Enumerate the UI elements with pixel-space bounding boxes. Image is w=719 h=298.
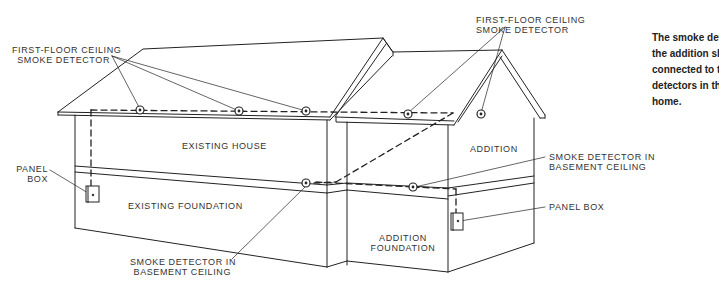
label-panel-box-left: PANEL BOX bbox=[12, 164, 48, 184]
junction-walls bbox=[327, 122, 347, 267]
smoke-detector-icon bbox=[302, 107, 310, 115]
panel-box-icon bbox=[451, 213, 463, 231]
label-addition: ADDITION bbox=[470, 144, 518, 154]
interconnect-wiring bbox=[91, 110, 456, 213]
label-basement-detector-right: SMOKE DETECTOR IN BASEMENT CEILING bbox=[549, 152, 655, 172]
panel-box-icon bbox=[86, 186, 99, 203]
smoke-detector-icon bbox=[404, 110, 412, 118]
smoke-detector-icon bbox=[302, 179, 310, 187]
label-addition-foundation: ADDITION FOUNDATION bbox=[360, 233, 446, 253]
label-basement-detector-left: SMOKE DETECTOR IN BASEMENT CEILING bbox=[130, 257, 231, 277]
smoke-detector-icon bbox=[136, 106, 144, 114]
label-first-floor-detector-right: FIRST-FLOOR CEILING SMOKE DETECTOR bbox=[476, 15, 585, 35]
existing-walls bbox=[75, 115, 327, 267]
label-panel-box-right: PANEL BOX bbox=[549, 202, 604, 212]
label-existing-foundation: EXISTING FOUNDATION bbox=[128, 201, 243, 211]
label-existing-house: EXISTING HOUSE bbox=[182, 141, 267, 151]
leader-lines bbox=[50, 27, 545, 259]
house-diagram: FIRST-FLOOR CEILING SMOKE DETECTOR FIRST… bbox=[0, 0, 719, 298]
smoke-detector-icon bbox=[409, 183, 417, 191]
smoke-detector-icon bbox=[235, 107, 243, 115]
interconnection-note: The smoke detectors in the addition shou… bbox=[652, 30, 718, 110]
label-first-floor-detector-left: FIRST-FLOOR CEILING SMOKE DETECTOR bbox=[12, 45, 110, 65]
smoke-detector-icon bbox=[477, 110, 485, 118]
